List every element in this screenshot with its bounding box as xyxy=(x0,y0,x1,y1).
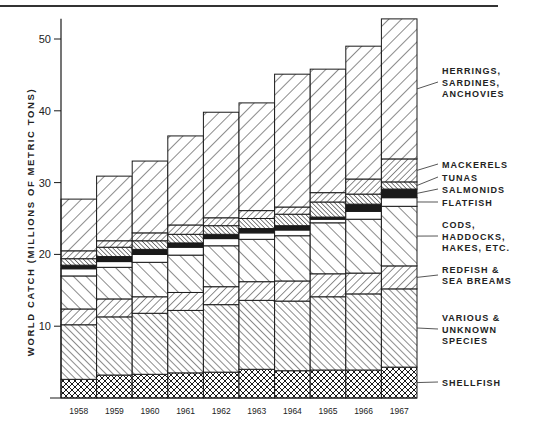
bar-1964 xyxy=(275,74,311,398)
segment-salmonids xyxy=(203,234,239,238)
segment-herrings-sardines-anchovies xyxy=(346,46,382,179)
label-text: HERRINGS, xyxy=(442,66,501,76)
segment-mackerels xyxy=(61,251,97,259)
segment-tunas xyxy=(168,234,204,243)
x-tick-label: 1964 xyxy=(283,406,302,416)
segment-shellfish xyxy=(381,367,417,398)
segment-herrings-sardines-anchovies xyxy=(381,19,417,159)
segment-herrings-sardines-anchovies xyxy=(132,161,168,233)
segment-cods-haddocks-hakes-etc- xyxy=(239,239,275,281)
segment-redfish-sea-breams xyxy=(61,309,97,325)
segment-cods-haddocks-hakes-etc- xyxy=(132,262,168,296)
label-herrings-sardines-anchovies: HERRINGS,SARDINES,ANCHOVIES xyxy=(417,66,505,99)
segment-shellfish xyxy=(203,372,239,398)
bar-1960 xyxy=(132,161,168,398)
segment-flatfish xyxy=(346,211,382,219)
segment-various-unknown-species xyxy=(97,317,133,375)
x-tick-label: 1961 xyxy=(176,406,195,416)
label-mackerels: MACKERELS xyxy=(417,160,508,171)
x-tick-label: 1960 xyxy=(141,406,160,416)
segment-herrings-sardines-anchovies xyxy=(310,69,346,192)
label-text: HADDOCKS, xyxy=(442,232,506,242)
segment-tunas xyxy=(97,247,133,256)
segment-mackerels xyxy=(239,211,275,219)
segment-salmonids xyxy=(61,265,97,269)
label-flatfish: FLATFISH xyxy=(417,198,493,208)
segment-salmonids xyxy=(346,204,382,211)
label-text: FLATFISH xyxy=(442,198,493,208)
segment-redfish-sea-breams xyxy=(310,274,346,297)
segment-flatfish xyxy=(168,247,204,255)
x-axis-tick-labels: 1958195919601961196219631964196519661967 xyxy=(69,406,409,416)
segment-shellfish xyxy=(168,373,204,398)
segment-various-unknown-species xyxy=(275,301,311,371)
segment-shellfish xyxy=(97,375,133,398)
segment-flatfish xyxy=(132,254,168,262)
bar-1967 xyxy=(381,19,417,398)
leader-line xyxy=(417,189,438,193)
segment-cods-haddocks-hakes-etc- xyxy=(61,276,97,309)
stacked-bar-chart: 1020304050 19581959196019611962196319641… xyxy=(0,0,534,436)
label-text: SHELLFISH xyxy=(442,378,501,388)
label-text: SEA BREAMS xyxy=(442,276,512,286)
segment-tunas xyxy=(381,182,417,189)
segment-tunas xyxy=(203,226,239,235)
segment-salmonids xyxy=(132,249,168,254)
segment-tunas xyxy=(239,219,275,229)
label-text: SARDINES, xyxy=(442,78,500,88)
label-shellfish: SHELLFISH xyxy=(417,378,501,388)
label-various-unknown-species: VARIOUS &UNKNOWNSPECIES xyxy=(417,313,500,346)
leader-line xyxy=(417,328,438,329)
y-tick-label: 50 xyxy=(39,33,51,45)
segment-redfish-sea-breams xyxy=(168,292,204,310)
x-tick-label: 1965 xyxy=(319,406,338,416)
segment-tunas xyxy=(346,194,382,204)
y-tick-label: 40 xyxy=(39,105,51,117)
segment-tunas xyxy=(310,202,346,217)
segment-various-unknown-species xyxy=(346,294,382,370)
label-salmonids: SALMONIDS xyxy=(417,185,505,195)
segment-flatfish xyxy=(97,262,133,268)
segment-cods-haddocks-hakes-etc- xyxy=(168,255,204,292)
y-tick-label: 30 xyxy=(39,177,51,189)
segment-salmonids xyxy=(97,257,133,262)
segment-shellfish xyxy=(61,379,97,398)
x-tick-label: 1958 xyxy=(69,406,88,416)
x-tick-label: 1963 xyxy=(247,406,266,416)
x-tick-label: 1967 xyxy=(390,406,409,416)
segment-herrings-sardines-anchovies xyxy=(97,176,133,241)
segment-mackerels xyxy=(381,159,417,182)
segment-shellfish xyxy=(239,369,275,398)
segment-herrings-sardines-anchovies xyxy=(203,112,239,218)
segment-shellfish xyxy=(310,370,346,398)
segment-salmonids xyxy=(168,243,204,247)
segment-salmonids xyxy=(275,226,311,230)
bar-1962 xyxy=(203,112,239,398)
segment-redfish-sea-breams xyxy=(239,282,275,301)
segment-redfish-sea-breams xyxy=(346,273,382,294)
segment-salmonids xyxy=(239,229,275,233)
segment-tunas xyxy=(61,259,97,265)
segment-flatfish xyxy=(275,230,311,236)
x-tick-label: 1966 xyxy=(354,406,373,416)
chart: WORLD CATCH (MILLIONS OF METRIC TONS) xyxy=(0,0,534,436)
y-tick-label: 20 xyxy=(39,248,51,260)
segment-cods-haddocks-hakes-etc- xyxy=(203,246,239,287)
segment-flatfish xyxy=(61,269,97,276)
bar-1961 xyxy=(168,136,204,398)
segment-mackerels xyxy=(310,193,346,202)
segment-tunas xyxy=(275,214,311,225)
segment-herrings-sardines-anchovies xyxy=(275,74,311,207)
bar-1966 xyxy=(346,46,382,398)
segment-herrings-sardines-anchovies xyxy=(61,199,97,251)
segment-mackerels xyxy=(97,241,133,247)
bar-stacks xyxy=(61,19,417,398)
segment-flatfish xyxy=(203,239,239,246)
bar-1965 xyxy=(310,69,346,398)
label-text: CODS, xyxy=(442,220,476,230)
x-tick-label: 1962 xyxy=(212,406,231,416)
leader-line xyxy=(417,382,438,383)
bar-1958 xyxy=(61,199,97,398)
segment-flatfish xyxy=(381,198,417,207)
segment-redfish-sea-breams xyxy=(132,297,168,314)
